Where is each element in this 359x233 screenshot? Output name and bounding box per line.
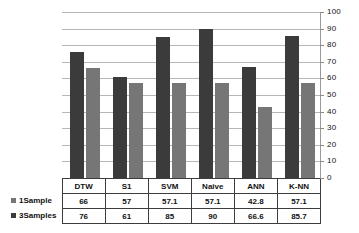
- bar-1sample-ann: [258, 107, 272, 178]
- table-cell: 85: [148, 209, 191, 224]
- bar-3samples-naive: [199, 29, 213, 178]
- y-axis-tick-label: 60: [327, 74, 336, 82]
- y-axis-tick-label: 50: [327, 91, 336, 99]
- y-axis-tick: [320, 161, 324, 162]
- y-axis-tick-label: 0: [327, 174, 332, 182]
- table-cell: 66: [62, 194, 105, 209]
- bar-1sample-svm: [172, 83, 186, 178]
- table-cell: 85.7: [277, 209, 320, 224]
- table-cell: 76: [62, 209, 105, 224]
- y-axis-tick-label: 100: [327, 8, 341, 16]
- bar-group-k-nn: [277, 12, 320, 178]
- table-cell: 61: [105, 209, 148, 224]
- y-axis-tick-label: 40: [327, 108, 336, 116]
- table-header-ann: ANN: [234, 179, 277, 194]
- table-header-row: DTW S1 SVM Naive ANN K-NN: [8, 179, 321, 194]
- table-header-svm: SVM: [148, 179, 191, 194]
- bar-group-naive: [191, 12, 234, 178]
- table-cell: 57.1: [191, 194, 234, 209]
- table-header-naive: Naive: [191, 179, 234, 194]
- bar-group-svm: [148, 12, 191, 178]
- table-header-knn: K-NN: [277, 179, 320, 194]
- y-axis-tick: [320, 112, 324, 113]
- bar-chart-with-data-table: DTW S1 SVM Naive ANN K-NN 1Sample 66 57 …: [0, 0, 359, 233]
- legend-label: 1Sample: [19, 197, 52, 206]
- y-axis-tick: [320, 178, 324, 179]
- bar-3samples-dtw: [70, 52, 84, 178]
- y-axis-tick: [320, 12, 324, 13]
- y-axis-tick-label: 70: [327, 58, 336, 66]
- table-cell: 42.8: [234, 194, 277, 209]
- legend-label: 3Samples: [19, 212, 56, 221]
- bar-group-s1: [105, 12, 148, 178]
- bar-group-dtw: [62, 12, 105, 178]
- table-cell: 66.6: [234, 209, 277, 224]
- y-axis-tick-label: 20: [327, 141, 336, 149]
- y-axis-tick-label: 80: [327, 41, 336, 49]
- legend-swatch-icon: [11, 213, 16, 218]
- chart-data-table: DTW S1 SVM Naive ANN K-NN 1Sample 66 57 …: [8, 178, 321, 224]
- y-axis-tick: [320, 145, 324, 146]
- bar-1sample-dtw: [86, 68, 100, 178]
- bar-1sample-naive: [215, 83, 229, 178]
- bar-group-ann: [234, 12, 277, 178]
- table-cell: 57: [105, 194, 148, 209]
- y-axis-tick: [320, 62, 324, 63]
- legend-entry-1sample: 1Sample: [8, 194, 62, 209]
- y-axis-tick: [320, 78, 324, 79]
- y-axis-tick: [320, 128, 324, 129]
- bars-layer: [62, 12, 320, 178]
- y-axis-tick: [320, 95, 324, 96]
- y-axis-tick-label: 10: [327, 157, 336, 165]
- table-cell: 57.1: [277, 194, 320, 209]
- legend-swatch-icon: [11, 198, 16, 203]
- y-axis-tick-label: 30: [327, 124, 336, 132]
- legend-entry-3samples: 3Samples: [8, 209, 62, 224]
- table-corner-cell: [8, 179, 62, 194]
- bar-3samples-k-nn: [285, 36, 299, 178]
- table-cell: 57.1: [148, 194, 191, 209]
- table-cell: 90: [191, 209, 234, 224]
- bar-1sample-k-nn: [301, 83, 315, 178]
- bar-1sample-s1: [129, 83, 143, 178]
- bar-3samples-ann: [242, 67, 256, 178]
- bar-3samples-s1: [113, 77, 127, 178]
- y-axis-tick: [320, 45, 324, 46]
- y-axis-tick-label: 90: [327, 25, 336, 33]
- bar-3samples-svm: [156, 37, 170, 178]
- table-row: 1Sample 66 57 57.1 57.1 42.8 57.1: [8, 194, 321, 209]
- y-axis-tick: [320, 29, 324, 30]
- table-row: 3Samples 76 61 85 90 66.6 85.7: [8, 209, 321, 224]
- table-header-s1: S1: [105, 179, 148, 194]
- table-header-dtw: DTW: [62, 179, 105, 194]
